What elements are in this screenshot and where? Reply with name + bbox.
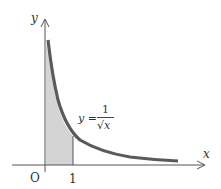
x-tick-label-1: 1 [69,173,77,185]
fraction-bar [97,117,114,118]
y-axis-label: y [31,12,38,24]
origin-label: O [30,172,40,184]
x-axis-label: x [203,148,210,160]
equation-lhs: y = [78,113,97,124]
equation-denominator: √x [97,119,110,132]
equation-numerator: 1 [102,103,109,116]
graph-canvas [0,0,221,189]
